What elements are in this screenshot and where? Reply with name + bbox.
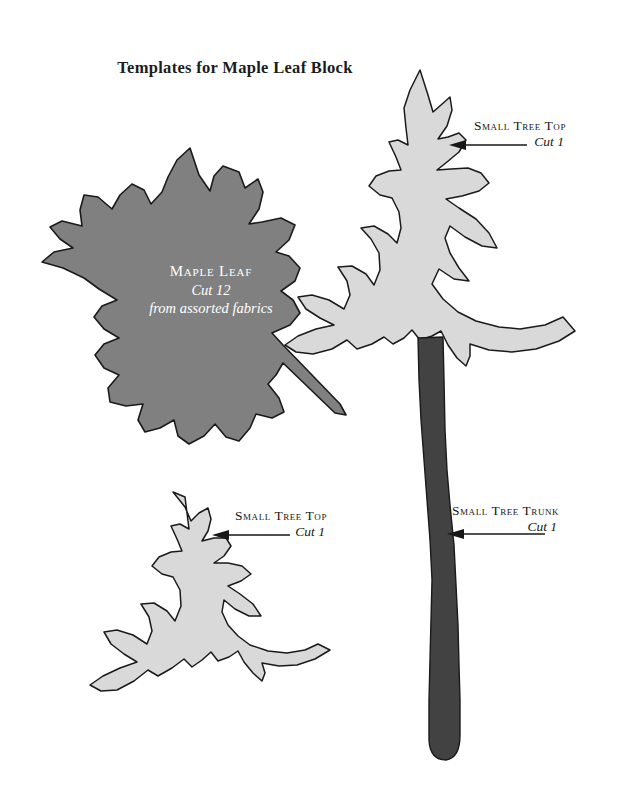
small-tree-top-large-cut-count: Cut 1 <box>474 134 566 149</box>
small-tree-top-small-cut-count: Cut 1 <box>235 524 327 539</box>
template-sheet: Templates for Maple Leaf Block Maple Lea… <box>0 0 634 807</box>
maple-leaf-fabric-note: from assorted fabrics <box>104 300 318 317</box>
maple-leaf-caption: Maple Leaf Cut 12 from assorted fabrics <box>104 263 318 317</box>
callout-small-tree-top-large: Small Tree Top Cut 1 <box>474 118 566 149</box>
small-tree-top-large-shape <box>285 70 575 366</box>
small-tree-top-large-label: Small Tree Top <box>474 118 566 133</box>
page-title: Templates for Maple Leaf Block <box>0 58 470 78</box>
small-tree-top-small-label: Small Tree Top <box>235 508 327 523</box>
small-tree-trunk-shape <box>418 337 460 760</box>
small-tree-trunk-cut-count: Cut 1 <box>452 519 559 534</box>
maple-leaf-cut-count: Cut 12 <box>104 282 318 299</box>
small-tree-trunk-label: Small Tree Trunk <box>452 503 559 518</box>
callout-small-tree-trunk: Small Tree Trunk Cut 1 <box>452 503 559 534</box>
callout-small-tree-top-small: Small Tree Top Cut 1 <box>235 508 327 539</box>
maple-leaf-label: Maple Leaf <box>104 263 318 281</box>
